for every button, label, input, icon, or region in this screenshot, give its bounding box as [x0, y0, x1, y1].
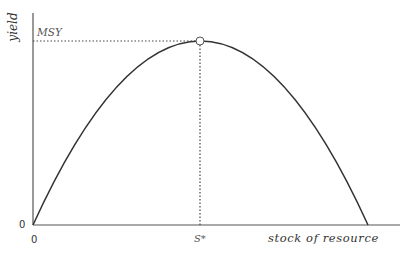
- y-axis-label: yield: [6, 12, 20, 41]
- sstar-label: S*: [194, 233, 206, 244]
- x-axis-label: stock of resource: [268, 231, 379, 245]
- msy-point-marker: [196, 37, 204, 45]
- msy-label: MSY: [37, 26, 62, 38]
- x-origin-tick: 0: [31, 234, 37, 245]
- y-origin-tick: 0: [19, 219, 25, 230]
- chart-canvas: [0, 0, 412, 255]
